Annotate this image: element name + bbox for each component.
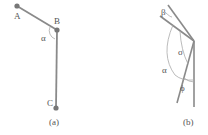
caption-b: (b)	[183, 118, 194, 127]
angle-beta-arc	[165, 12, 172, 17]
point-b	[54, 27, 59, 32]
point-c	[53, 105, 58, 110]
segment-ab	[17, 6, 57, 30]
label-angle-alpha-a: α	[41, 34, 46, 43]
caption-a: (a)	[49, 118, 59, 127]
point-a	[14, 3, 19, 8]
segment-bc	[56, 30, 57, 108]
panel-b	[160, 5, 194, 107]
label-angle-phi: ϕ	[180, 84, 185, 93]
ray-lower	[160, 16, 194, 41]
label-angle-beta: β	[161, 8, 166, 17]
label-angle-alpha-b: α	[162, 66, 167, 75]
diagram-canvas	[0, 0, 208, 135]
label-point-b: B	[54, 17, 60, 26]
label-angle-sigma: σ	[178, 48, 183, 57]
label-point-a: A	[14, 12, 21, 21]
label-point-c: C	[47, 99, 53, 108]
panel-a	[14, 3, 59, 110]
ray-upper	[168, 5, 194, 41]
